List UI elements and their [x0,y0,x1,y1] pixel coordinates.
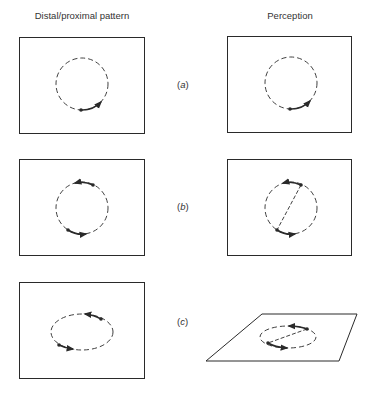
dot [288,107,292,111]
frame [20,38,145,134]
panel-c-perception [206,314,357,361]
motion-arrow-bottom-icon [277,230,295,234]
diagram-canvas [0,0,373,393]
motion-arrow-icon [290,101,310,109]
dot-top [99,317,103,321]
dot-bottom [266,341,270,345]
dot-top [299,183,303,187]
dashed-circle-path [56,182,108,234]
dot [79,108,83,112]
panel-a-distal [20,38,145,134]
motion-arrow-top-icon [75,182,93,185]
dashed-circle-path [265,182,317,234]
dot-bottom [57,343,61,347]
dot-top [305,327,309,331]
panel-a-perception [228,37,352,133]
dashed-bar-connector [277,185,301,230]
motion-arrow-top-icon [289,326,307,329]
motion-arrow-bottom-icon [59,345,73,349]
motion-arrow-icon [81,102,101,110]
frame [20,283,145,379]
tilted-plane [206,314,357,361]
dot-bottom [66,228,70,232]
frame [228,37,352,133]
frame [20,160,145,256]
dashed-bar-connector [268,329,307,343]
panel-c-distal [20,283,145,379]
panel-b-perception [228,160,352,256]
dot-bottom [275,228,279,232]
motion-arrow-bottom-icon [68,230,86,234]
dot-top [91,183,95,187]
panel-b-distal [20,160,145,256]
